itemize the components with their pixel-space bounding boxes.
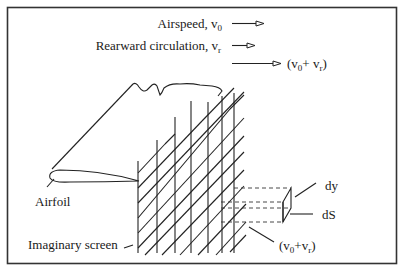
svg-text:Rearward circulation, vr: Rearward circulation, vr: [96, 38, 221, 55]
flux-element-box: [221, 188, 291, 222]
arrow-right-icon: [232, 21, 264, 26]
imaginary-screen-label: Imaginary screen: [28, 237, 118, 252]
legend-rearward-circulation: Rearward circulation, vr: [96, 38, 255, 55]
element-velocity-label: (v0+vr): [279, 238, 316, 255]
arrow-right-icon: [232, 43, 255, 48]
ds-label: dS: [322, 207, 336, 222]
dy-label: dy: [325, 178, 339, 193]
legend-total-velocity: (v0+ vr): [232, 56, 327, 73]
svg-text:(v0+ vr): (v0+ vr): [287, 56, 327, 73]
airfoil-shape: [50, 83, 222, 182]
imaginary-screen-grid: [138, 88, 246, 255]
legend-airspeed: Airspeed, v0: [158, 16, 264, 33]
airfoil-label: Airfoil: [35, 194, 71, 209]
arrow-right-icon: [232, 61, 281, 66]
airfoil-circulation-diagram: Airspeed, v0 Rearward circulation, vr (v…: [0, 0, 404, 273]
svg-text:Airspeed, v0: Airspeed, v0: [158, 16, 223, 33]
